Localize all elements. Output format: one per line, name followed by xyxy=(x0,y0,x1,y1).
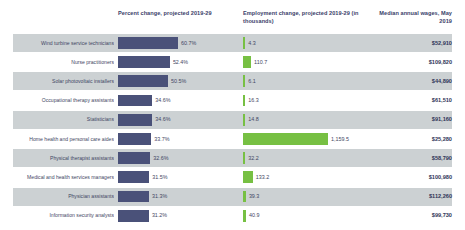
percent-change-value: 34.6% xyxy=(155,110,170,129)
table-row: Medical and health services managers31.5… xyxy=(0,168,465,187)
percent-change-value: 31.2% xyxy=(152,206,167,225)
occupations-chart: Percent change, projected 2019-29 Employ… xyxy=(0,0,465,230)
employment-change-value: 39.3 xyxy=(249,187,260,206)
percent-change-value: 32.6% xyxy=(153,149,168,168)
column-header-employment-change: Employment change, projected 2019-29 (in… xyxy=(243,9,383,25)
median-wage-value: $109,820 xyxy=(378,53,452,72)
percent-change-value: 60.7% xyxy=(181,34,196,53)
employment-change-bar xyxy=(243,75,245,87)
employment-change-value: 110.7 xyxy=(254,53,267,72)
occupation-label: Information security analysts xyxy=(13,206,114,225)
median-wage-value: $44,890 xyxy=(378,72,452,91)
employment-change-value: 14.8 xyxy=(248,110,259,129)
percent-change-bar xyxy=(118,133,151,145)
employment-change-value: 32.2 xyxy=(248,149,259,168)
median-wage-value: $91,160 xyxy=(378,110,452,129)
occupation-label: Physical therapist assistants xyxy=(13,149,114,168)
table-row: Statisticians34.6%14.8$91,160 xyxy=(0,110,465,129)
median-wage-value: $112,260 xyxy=(378,187,452,206)
median-wage-value: $61,510 xyxy=(378,91,452,110)
percent-change-value: 33.7% xyxy=(154,130,169,149)
table-row: Home health and personal care aides33.7%… xyxy=(0,130,465,149)
employment-change-value: 16.3 xyxy=(248,91,259,110)
occupation-label: Home health and personal care aides xyxy=(13,130,114,149)
employment-change-bar xyxy=(243,114,245,126)
percent-change-bar xyxy=(118,152,150,164)
percent-change-bar xyxy=(118,95,152,107)
employment-change-bar xyxy=(243,37,245,49)
median-wage-value: $99,730 xyxy=(378,206,452,225)
occupation-label: Nurse practitioners xyxy=(13,53,114,72)
table-row: Information security analysts31.2%40.9$9… xyxy=(0,206,465,225)
employment-change-value: 133.2 xyxy=(256,168,270,187)
occupation-label: Physician assistants xyxy=(13,187,114,206)
employment-change-bar xyxy=(243,56,251,68)
percent-change-value: 52.4% xyxy=(173,53,188,72)
employment-change-bar xyxy=(243,133,328,145)
percent-change-bar xyxy=(118,56,170,68)
table-row: Solar photovoltaic installers50.5%6.1$44… xyxy=(0,72,465,91)
median-wage-value: $25,280 xyxy=(378,130,452,149)
occupation-label: Occupational therapy assistants xyxy=(13,91,114,110)
table-row: Nurse practitioners52.4%110.7$109,820 xyxy=(0,53,465,72)
occupation-label: Medical and health services managers xyxy=(13,168,114,187)
median-wage-value: $100,980 xyxy=(378,168,452,187)
employment-change-bar xyxy=(243,171,253,183)
table-row: Wind turbine service technicians60.7%4.3… xyxy=(0,34,465,53)
employment-change-bar xyxy=(243,152,245,164)
column-header-percent-change: Percent change, projected 2019-29 xyxy=(118,9,238,17)
percent-change-bar xyxy=(118,171,149,183)
occupation-label: Solar photovoltaic installers xyxy=(13,72,114,91)
employment-change-value: 6.1 xyxy=(248,72,256,91)
percent-change-value: 31.5% xyxy=(152,168,167,187)
employment-change-bar xyxy=(243,95,245,107)
column-header-median-wages: Median annual wages, May 2019 xyxy=(378,9,452,25)
percent-change-bar xyxy=(118,114,152,126)
median-wage-value: $58,790 xyxy=(378,149,452,168)
percent-change-value: 31.3% xyxy=(152,187,167,206)
percent-change-bar xyxy=(118,191,149,203)
occupation-label: Statisticians xyxy=(13,110,114,129)
table-row: Physician assistants31.3%39.3$112,260 xyxy=(0,187,465,206)
employment-change-bar xyxy=(243,191,246,203)
employment-change-value: 40.9 xyxy=(249,206,260,225)
percent-change-value: 50.5% xyxy=(171,72,186,91)
employment-change-bar xyxy=(243,210,246,222)
employment-change-value: 4.3 xyxy=(248,34,256,53)
percent-change-value: 34.6% xyxy=(155,91,170,110)
table-row: Physical therapist assistants32.6%32.2$5… xyxy=(0,149,465,168)
employment-change-value: 1,159.5 xyxy=(331,130,349,149)
percent-change-bar xyxy=(118,37,178,49)
percent-change-bar xyxy=(118,75,168,87)
median-wage-value: $52,910 xyxy=(378,34,452,53)
occupation-label: Wind turbine service technicians xyxy=(13,34,114,53)
percent-change-bar xyxy=(118,210,149,222)
table-row: Occupational therapy assistants34.6%16.3… xyxy=(0,91,465,110)
